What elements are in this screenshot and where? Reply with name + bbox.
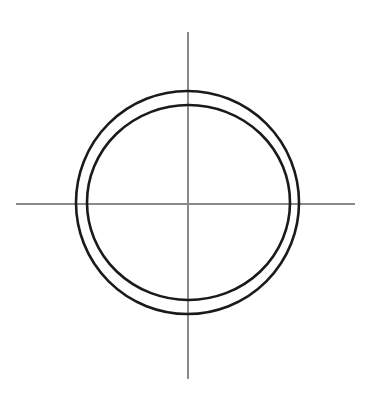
circle-diagram-svg: [0, 0, 379, 397]
canvas-background: [0, 0, 379, 397]
figure-canvas: [0, 0, 379, 397]
